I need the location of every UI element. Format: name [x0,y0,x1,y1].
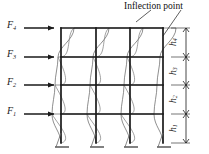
base-support-legs-group [56,133,163,147]
leader-line-left [136,10,151,22]
deflected-column-2-3 [121,85,124,114]
deflected-column-1-2 [87,114,96,143]
deflected-column-1-1 [52,114,61,143]
force-label-F4: F4 [7,20,16,31]
force-label-F3: F3 [7,49,16,60]
height-label-h4: h4 [169,38,180,46]
deflected-column-3-1 [55,57,58,85]
deflected-column-2-2 [87,85,90,114]
height-label-h2: h2 [169,95,180,103]
inflection-point-label: Inflection point [124,1,183,11]
deflected-column-2-4 [154,85,157,114]
leader-line-right [163,10,181,36]
frame-inflection-point-figure: F4 F3 F2 F1 h4 h3 h2 h1 Inflection point [0,0,209,154]
deflected-column-3-3 [124,57,127,85]
undeformed-frame-group [61,28,163,143]
deflected-column-3-2 [90,57,93,85]
deflected-column-1-4 [154,114,163,143]
force-arrows-group [24,28,54,114]
deflected-column-1-3 [121,114,130,143]
force-label-F1: F1 [7,106,16,117]
force-label-F2: F2 [7,77,16,88]
deflected-column-3-4 [157,57,160,85]
height-label-h1: h1 [169,124,180,132]
height-label-h3: h3 [169,67,180,75]
deflected-column-2-1 [52,85,55,114]
